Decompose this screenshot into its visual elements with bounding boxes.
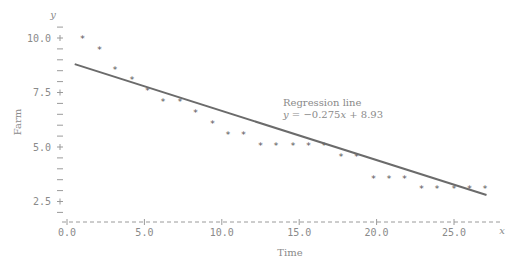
scatter-chart: 10.07.55.02.5 0.05.010.015.020.025.0 ***…: [0, 0, 518, 267]
data-point: *: [113, 65, 118, 75]
data-point: *: [435, 184, 440, 194]
data-point: *: [306, 141, 311, 151]
x-tick-label: 20.0: [365, 227, 389, 238]
data-point: *: [402, 174, 407, 184]
y-tick-label: 5.0: [33, 142, 51, 153]
data-point: *: [97, 45, 102, 55]
data-point: *: [274, 141, 279, 151]
regression-label: Regression line: [283, 97, 361, 108]
data-point: *: [193, 108, 198, 118]
data-point: *: [419, 184, 424, 194]
data-point: *: [226, 130, 231, 140]
data-point: *: [291, 141, 296, 151]
y-axis-title: Farm: [12, 108, 23, 135]
data-point: *: [161, 97, 166, 107]
x-tick-label: 15.0: [287, 227, 311, 238]
data-point: *: [371, 174, 376, 184]
data-point: *: [483, 184, 488, 194]
y-tick-label: 7.5: [33, 87, 51, 98]
data-point: *: [210, 119, 215, 129]
y-axis-variable: y: [49, 9, 56, 20]
x-tick-label: 5.0: [135, 227, 153, 238]
y-axis: 10.07.55.02.5: [27, 27, 63, 212]
x-axis-title: Time: [277, 247, 302, 258]
x-axis: 0.05.010.015.020.025.0: [58, 219, 503, 238]
y-tick-label: 10.0: [27, 33, 51, 44]
regression-line: [75, 64, 487, 195]
x-tick-label: 0.0: [58, 227, 76, 238]
data-point: *: [80, 34, 85, 44]
data-point: *: [387, 174, 392, 184]
y-tick-label: 2.5: [33, 196, 51, 207]
data-point: *: [258, 141, 263, 151]
x-axis-variable: x: [499, 225, 505, 236]
regression-equation: y = −0.275x + 8.93: [282, 109, 383, 120]
data-point: *: [339, 152, 344, 162]
x-tick-label: 10.0: [210, 227, 234, 238]
x-tick-label: 25.0: [442, 227, 466, 238]
data-point: *: [241, 130, 246, 140]
